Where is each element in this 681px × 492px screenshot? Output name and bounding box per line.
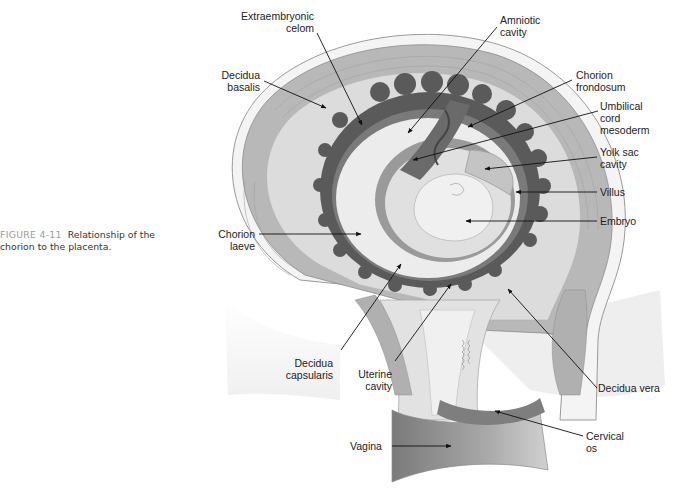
label-chorion-frondosum: Chorion frondosum <box>576 69 626 93</box>
label-decidua-basalis: Decidua basalis <box>190 69 260 93</box>
label-umbilical-cord-mesoderm: Umbilical cord mesoderm <box>600 100 650 136</box>
label-extraembryonic-celom: Extraembryonic celom <box>222 10 314 34</box>
label-amniotic-cavity: Amniotic cavity <box>500 14 540 38</box>
figure-number: FIGURE 4-11 <box>0 229 62 240</box>
label-vagina: Vagina <box>350 440 382 452</box>
label-decidua-capsularis: Decidua capsularis <box>255 357 333 381</box>
label-cervical-os: Cervical os <box>586 430 624 454</box>
label-chorion-laeve: Chorion laeve <box>190 228 255 252</box>
figure-caption: FIGURE 4-11Relationship of the chorion t… <box>0 229 180 253</box>
label-embryo: Embryo <box>600 215 636 227</box>
label-uterine-cavity: Uterine cavity <box>330 368 392 392</box>
label-yolk-sac-cavity: Yolk sac cavity <box>600 146 639 170</box>
label-decidua-vera: Decidua vera <box>598 382 660 394</box>
label-villus: Villus <box>600 186 625 198</box>
